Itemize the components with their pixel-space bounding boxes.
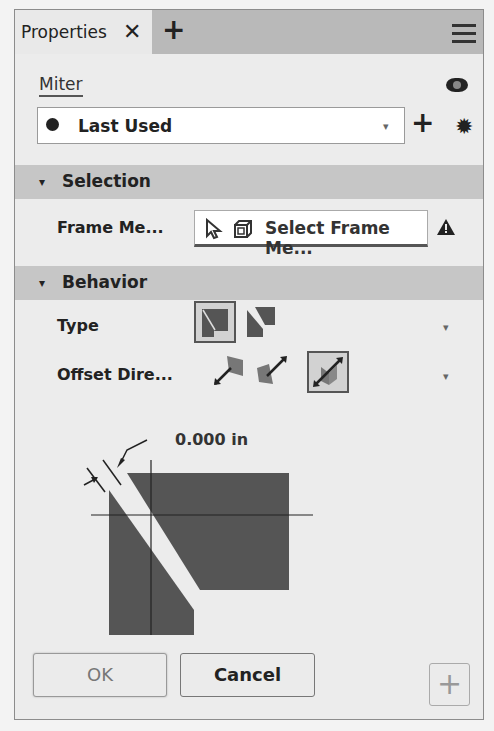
tab-label: Properties [21,22,107,42]
hamburger-icon[interactable] [452,24,476,48]
miter-diagram [81,410,421,640]
feature-name[interactable]: Miter [39,74,83,97]
tab-bar: Properties ✕ + [15,10,483,54]
apply-plus-button[interactable]: + [429,663,470,706]
section-title: Selection [62,171,151,191]
miter-preview-diagram: 0.000 in [81,410,421,640]
miter-split-icon [243,301,281,339]
warning-icon [436,218,456,236]
cube-icon [233,219,253,239]
add-preset-button[interactable]: + [411,106,434,139]
type-miter-full-button[interactable] [194,301,236,343]
preset-dropdown[interactable]: Last Used ▾ [37,107,405,144]
offset-direction-2-button[interactable] [253,350,295,392]
selector-text: Select Frame Me... [265,218,427,258]
gear-icon[interactable]: ✹ [455,116,473,138]
symmetric-icon [309,353,347,391]
section-behavior-header[interactable]: ▾ Behavior [15,266,483,300]
properties-panel: Properties ✕ + Miter Last Used ▾ + ✹ ▾ S… [14,9,484,720]
frame-members-selector[interactable]: Select Frame Me... [194,210,428,247]
miter-full-icon [196,303,234,341]
section-title: Behavior [62,272,147,292]
direction-2-icon [253,350,291,388]
type-label: Type [57,316,99,335]
collapse-icon: ▾ [39,276,45,290]
cursor-icon [205,218,223,240]
frame-members-label: Frame Me... [57,218,164,237]
add-tab-button[interactable]: + [162,16,185,44]
chevron-down-icon[interactable]: ▾ [443,370,449,383]
direction-1-icon [211,350,249,388]
offset-direction-1-button[interactable] [211,350,253,392]
gap-dimension-label[interactable]: 0.000 in [175,430,248,449]
tab-properties[interactable]: Properties ✕ [15,10,152,54]
chevron-down-icon: ▾ [383,120,389,133]
chevron-down-icon[interactable]: ▾ [443,321,449,334]
cancel-button[interactable]: Cancel [180,653,315,697]
eye-icon[interactable] [446,78,468,92]
close-icon[interactable]: ✕ [123,19,141,44]
collapse-icon: ▾ [39,175,45,189]
ok-button[interactable]: OK [33,653,167,697]
offset-symmetric-button[interactable] [307,351,349,393]
offset-direction-label: Offset Dire... [57,365,173,384]
clock-icon [46,118,59,131]
type-miter-split-button[interactable] [243,301,285,343]
section-selection-header[interactable]: ▾ Selection [15,165,483,199]
preset-value: Last Used [78,116,172,136]
